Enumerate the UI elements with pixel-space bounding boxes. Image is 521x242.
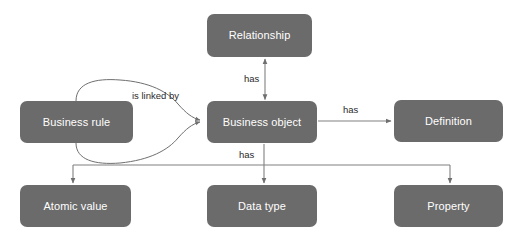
node-definition[interactable]: Definition [394, 100, 503, 142]
node-business-rule[interactable]: Business rule [20, 101, 133, 143]
node-atomic-value[interactable]: Atomic value [20, 185, 131, 227]
edge-label-has-definition: has [343, 105, 358, 115]
node-business-rule-label: Business rule [43, 116, 110, 128]
node-property[interactable]: Property [394, 185, 503, 227]
node-data-type[interactable]: Data type [207, 185, 317, 227]
node-relationship[interactable]: Relationship [207, 14, 312, 57]
edge-label-has-children: has [239, 150, 254, 160]
diagram-canvas: Relationship Business rule Business obje… [0, 0, 521, 242]
node-property-label: Property [427, 200, 469, 212]
edge-label-is-linked-by: is linked by [132, 91, 179, 101]
node-definition-label: Definition [425, 115, 472, 127]
node-data-type-label: Data type [238, 200, 286, 212]
node-business-object-label: Business object [223, 116, 302, 128]
node-business-object[interactable]: Business object [207, 101, 317, 143]
edge-label-has-relationship: has [244, 74, 259, 84]
edge-business-object-children [73, 144, 450, 183]
node-atomic-value-label: Atomic value [43, 200, 107, 212]
node-relationship-label: Relationship [229, 29, 291, 41]
